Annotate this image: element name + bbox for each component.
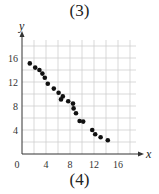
data-point xyxy=(59,97,64,102)
data-point xyxy=(90,128,95,133)
data-point xyxy=(81,119,86,124)
data-point xyxy=(106,138,111,143)
data-point xyxy=(43,76,48,81)
data-point xyxy=(98,135,103,140)
data-point xyxy=(37,68,42,73)
data-point xyxy=(33,65,38,70)
data-point xyxy=(71,106,76,111)
x-axis-arrow-icon xyxy=(138,152,144,157)
x-axis-label: x xyxy=(145,147,152,161)
x-tick-label: 0 xyxy=(15,159,20,170)
data-point xyxy=(93,132,98,137)
x-tick-label: 16 xyxy=(113,159,123,170)
y-tick-label: 4 xyxy=(13,125,18,136)
x-tick-label: 8 xyxy=(68,159,73,170)
data-point xyxy=(71,101,76,106)
y-tick-label: 16 xyxy=(8,53,18,64)
scatter-plot: xy0481216481216 xyxy=(0,0,159,194)
data-point xyxy=(52,86,57,91)
data-point xyxy=(56,91,61,96)
data-point xyxy=(40,71,45,76)
chart-caption: (4) xyxy=(0,170,159,190)
data-point xyxy=(28,61,33,66)
data-point xyxy=(66,99,71,104)
y-tick-label: 12 xyxy=(8,77,18,88)
x-tick-label: 12 xyxy=(89,159,99,170)
data-point xyxy=(74,111,79,116)
y-axis-label: y xyxy=(18,19,25,33)
x-tick-label: 4 xyxy=(44,159,49,170)
data-point xyxy=(46,82,51,87)
y-tick-label: 8 xyxy=(13,101,18,112)
